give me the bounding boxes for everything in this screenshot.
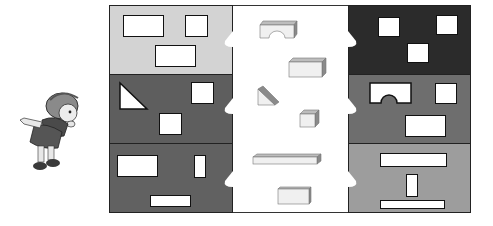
right-wall-3: [348, 143, 471, 213]
hole-square: [185, 15, 208, 37]
right-wall-2: [348, 74, 471, 144]
hole-square: [378, 17, 400, 37]
hole-square: [435, 83, 457, 104]
left-wall-1: [109, 5, 233, 75]
hole-long-bar: [380, 153, 447, 167]
hole-wide-rectangle: [405, 115, 446, 137]
rectangular-block-icon[interactable]: [288, 57, 328, 79]
hole-tall-rectangle: [406, 174, 418, 197]
hole-thin-bar: [380, 200, 445, 209]
left-notch-3-icon: [221, 171, 233, 191]
flat-block-icon[interactable]: [277, 186, 313, 206]
left-notch-2-icon: [221, 98, 233, 118]
hole-thin-bar: [150, 195, 191, 207]
hole-wide-rectangle: [117, 155, 158, 177]
right-wall-1: [348, 5, 471, 75]
left-wall-3: [109, 143, 233, 213]
hole-wide-rectangle: [155, 45, 196, 67]
hole-square: [407, 43, 429, 63]
left-notch-1-icon: [221, 31, 233, 51]
right-notch-3-icon: [348, 171, 360, 191]
cartoon-girl-illustration: [16, 86, 88, 181]
long-plank-icon[interactable]: [252, 153, 322, 165]
hole-wide-rectangle: [123, 15, 164, 37]
triangular-prism-icon[interactable]: [257, 88, 281, 108]
girl-figure-icon: [16, 86, 88, 181]
right-notch-1-icon: [348, 31, 360, 51]
blocks-column: [233, 5, 348, 213]
left-wall-2: [109, 74, 233, 144]
cube-icon[interactable]: [299, 109, 321, 129]
hole-tall-rectangle: [194, 155, 206, 178]
hole-square: [159, 113, 182, 135]
right-notch-2-icon: [348, 98, 360, 118]
arch-block-icon[interactable]: [257, 20, 297, 44]
hole-square: [191, 82, 214, 104]
hole-square: [436, 15, 458, 35]
